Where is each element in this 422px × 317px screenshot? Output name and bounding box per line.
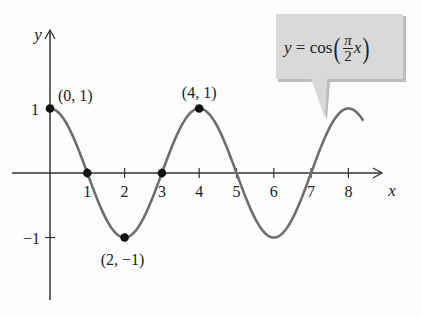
paren-right: ): [363, 33, 370, 63]
y-tick-label-neg1: −1: [23, 230, 40, 247]
function-annotation: y = cos( π 2 x): [284, 28, 400, 68]
point-label-2-neg1: (2, −1): [101, 251, 145, 269]
marked-point: [46, 104, 55, 113]
x-tick-label-1: 1: [83, 183, 91, 200]
x-tick-label-2: 2: [121, 183, 129, 200]
marked-point: [120, 233, 129, 242]
annotation-var: x: [354, 38, 362, 58]
x-tick-label-8: 8: [344, 183, 352, 200]
point-label-0-1: (0, 1): [58, 87, 93, 105]
y-axis-label: y: [32, 25, 42, 44]
y-tick-label-1: 1: [31, 101, 39, 118]
x-tick-label-3: 3: [158, 183, 166, 200]
x-axis-label: x: [387, 181, 396, 200]
x-tick-label-5: 5: [233, 183, 241, 200]
denominator: 2: [344, 49, 352, 64]
numerator: π: [343, 33, 353, 49]
x-tick-label-6: 6: [270, 183, 278, 200]
paren-left: (: [334, 33, 341, 63]
point-label-4-1: (4, 1): [182, 84, 217, 102]
x-tick-label-7: 7: [307, 183, 315, 200]
marked-point: [195, 104, 204, 113]
annotation-y: y: [284, 38, 292, 58]
marked-point: [158, 169, 167, 178]
cosine-graph: xy123456781−1(0, 1)(4, 1)(2, −1) y = cos…: [0, 0, 422, 317]
x-tick-label-4: 4: [195, 183, 203, 200]
marked-point: [83, 169, 92, 178]
fraction: π 2: [343, 33, 353, 64]
